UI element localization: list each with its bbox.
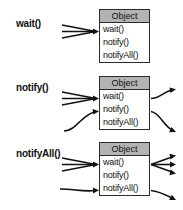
panel-label-notifyall: notifyAll() [16,148,60,159]
object-box-title: Object [100,10,149,23]
panel-notify: notify() Object wait() notify() notifyAl… [0,70,183,136]
object-box-methods: wait() notify() notifyAll() [100,23,149,62]
panel-wait: wait() Object wait() notify() notifyAll(… [0,0,183,70]
method-row-wait: wait() [100,90,149,103]
diagram-canvas: wait() Object wait() notify() notifyAll(… [0,0,183,210]
method-row-notifyall: notifyAll() [100,49,149,62]
method-row-wait: wait() [100,156,149,169]
object-box-methods: wait() notify() notifyAll() [100,156,149,195]
method-row-notifyall: notifyAll() [100,116,149,129]
method-row-notify: notify() [100,169,149,182]
object-box-notifyall: Object wait() notify() notifyAll() [99,142,150,196]
object-box-methods: wait() notify() notifyAll() [100,90,149,129]
panel-label-notify: notify() [16,82,48,93]
method-row-notify: notify() [100,103,149,116]
panel-label-wait: wait() [16,18,41,29]
method-row-wait: wait() [100,23,149,36]
object-box-wait: Object wait() notify() notifyAll() [99,9,150,63]
object-box-title: Object [100,143,149,156]
object-box-notify: Object wait() notify() notifyAll() [99,76,150,130]
object-box-title: Object [100,77,149,90]
method-row-notify: notify() [100,36,149,49]
method-row-notifyall: notifyAll() [100,182,149,195]
panel-notifyall: notifyAll() Object wait() notify() notif… [0,136,183,210]
